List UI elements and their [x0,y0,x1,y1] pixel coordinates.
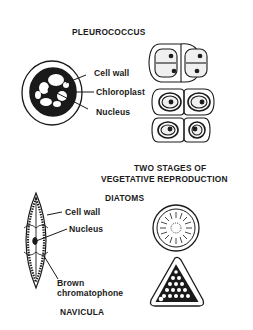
label-nucleus-pleurococcus: Nucleus [96,108,130,117]
navicula-cell [24,193,67,288]
pleurococcus-stage-1 [149,44,207,82]
label-brown: Brown [57,279,84,288]
pleurococcus-title: PLEUROCOCCUS [72,28,146,36]
navicula-title: NAVICULA [60,308,104,316]
label-nucleus-navicula: Nucleus [69,225,103,234]
caption-two-stages: TWO STAGES OF [134,164,206,172]
label-chromatophone: chromatophone [57,289,123,298]
label-chloroplast: Chloroplast [96,88,145,97]
circular-diatom [153,205,199,251]
diagram-artwork [0,0,253,330]
caption-vegetative-reproduction: VEGETATIVE REPRODUCTION [101,175,228,183]
triangular-diatom [151,257,204,306]
pleurococcus-cell [22,61,94,125]
diatoms-title: DIATOMS [105,194,144,202]
label-cell-wall-navicula: Cell wall [65,208,100,217]
label-cell-wall-pleurococcus: Cell wall [94,69,129,78]
pleurococcus-stage-2 [152,89,214,142]
